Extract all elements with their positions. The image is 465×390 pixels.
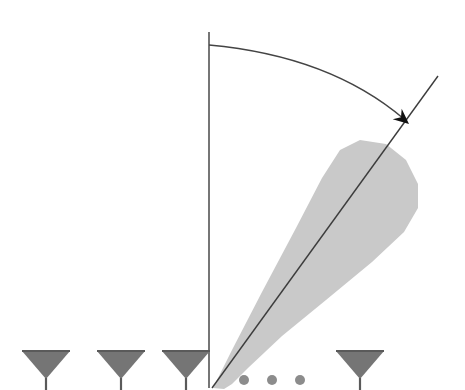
beam-steering-figure	[0, 0, 465, 390]
figure-canvas	[0, 0, 465, 390]
ellipsis-dot	[267, 375, 277, 385]
ellipsis-dot	[295, 375, 305, 385]
ellipsis-dot	[239, 375, 249, 385]
